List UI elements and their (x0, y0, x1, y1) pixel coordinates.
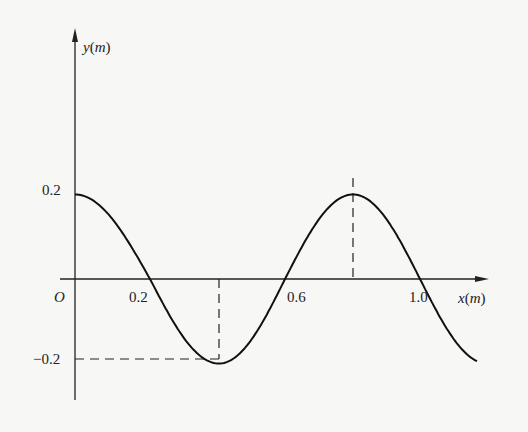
y-tick-negative: −0.2 (33, 351, 60, 367)
x-axis-label: x(m) (457, 290, 486, 307)
x-tick-0-2: 0.2 (129, 289, 148, 305)
x-tick-1-0: 1.0 (409, 289, 428, 305)
y-tick-positive: 0.2 (42, 182, 61, 198)
x-tick-0-6: 0.6 (287, 289, 306, 305)
x-axis-arrow-icon (475, 276, 489, 282)
y-axis-arrow-icon (72, 28, 78, 42)
origin-label: O (54, 289, 65, 305)
wave-chart: y(m) x(m) O 0.2 −0.2 0.2 0.6 1.0 (0, 0, 528, 432)
y-axis-label: y(m) (81, 39, 111, 56)
